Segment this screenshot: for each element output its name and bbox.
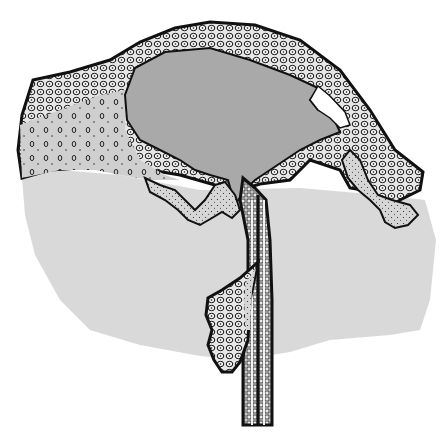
histology-diagram [0,0,441,433]
illustration [0,0,441,433]
